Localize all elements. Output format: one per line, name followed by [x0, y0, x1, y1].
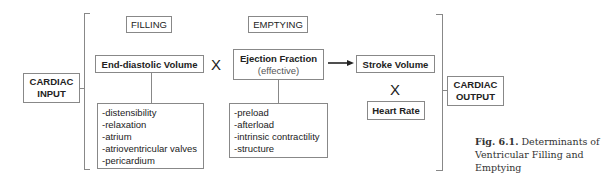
- emptying-factor: -preload: [234, 107, 323, 119]
- filling-factors-box: -distensibility -relaxation -atrium -atr…: [97, 103, 204, 169]
- stroke-volume-label: Stroke Volume: [363, 59, 429, 70]
- left-bracket-top: [84, 13, 90, 14]
- cardiac-output-box: CARDIAC OUTPUT: [447, 76, 504, 106]
- filling-factor: -distensibility: [102, 107, 199, 119]
- filling-factor: -atrium: [102, 131, 199, 143]
- caption-label: Fig. 6.1.: [475, 136, 518, 147]
- ejection-fraction-label: Ejection Fraction: [240, 53, 317, 65]
- left-bracket-vertical: [84, 13, 85, 170]
- multiply-symbol-2: X: [390, 82, 400, 97]
- ejection-fraction-sublabel: (effective): [258, 65, 300, 77]
- filling-factor: -pericardium: [102, 155, 199, 167]
- heart-rate-label: Heart Rate: [372, 105, 420, 116]
- filling-factor: -atrioventricular valves: [102, 143, 199, 155]
- caption-line2: Ventricular Filling and: [475, 148, 600, 161]
- edv-connector: [151, 73, 152, 103]
- cardiac-input-line2: INPUT: [37, 88, 66, 100]
- multiply-symbol: X: [211, 57, 221, 72]
- ef-connector: [278, 80, 279, 103]
- emptying-factor: -intrinsic contractility: [234, 131, 323, 143]
- cardiac-input-box: CARDIAC INPUT: [23, 73, 80, 103]
- arrow-icon: [328, 59, 354, 67]
- emptying-factor: -structure: [234, 143, 323, 155]
- right-bracket-bottom: [436, 170, 443, 171]
- cardiac-input-line1: CARDIAC: [30, 76, 74, 88]
- emptying-factors-box: -preload -afterload -intrinsic contracti…: [229, 103, 328, 158]
- cardiac-output-line1: CARDIAC: [454, 79, 498, 91]
- cardiac-output-line2: OUTPUT: [456, 91, 495, 103]
- emptying-header: EMPTYING: [248, 16, 308, 33]
- caption-line3: Emptying: [475, 161, 600, 174]
- right-bracket-top: [436, 14, 443, 15]
- stroke-volume-box: Stroke Volume: [356, 55, 435, 73]
- emptying-factor: -afterload: [234, 119, 323, 131]
- filling-header-label: FILLING: [131, 19, 167, 30]
- end-diastolic-volume-box: End-diastolic Volume: [95, 55, 204, 73]
- right-bracket-vertical: [442, 14, 443, 171]
- figure-caption: Fig. 6.1. Determinants of Ventricular Fi…: [475, 135, 600, 174]
- end-diastolic-volume-label: End-diastolic Volume: [102, 59, 198, 70]
- left-bracket-bottom: [84, 169, 90, 170]
- heart-rate-box: Heart Rate: [367, 101, 425, 120]
- emptying-header-label: EMPTYING: [253, 19, 303, 30]
- caption-line1: Determinants of: [521, 136, 599, 147]
- ejection-fraction-box: Ejection Fraction (effective): [233, 49, 324, 80]
- filling-factor: -relaxation: [102, 119, 199, 131]
- filling-header: FILLING: [126, 16, 172, 33]
